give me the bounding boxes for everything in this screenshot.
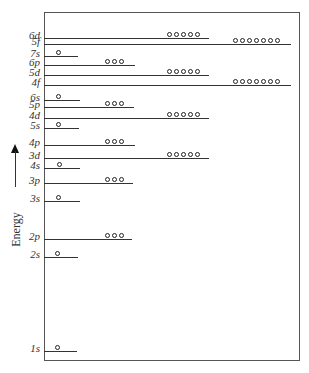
orbital-circle-icon [275, 79, 280, 84]
orbital-circle-icon [57, 162, 62, 167]
orbital-circle-icon [105, 139, 110, 144]
orbital-circle-icon [55, 251, 60, 256]
orbital-group-4f [233, 79, 280, 84]
level-line-4s [44, 168, 80, 169]
orbital-circle-icon [119, 177, 124, 182]
level-line-6d [44, 38, 209, 39]
level-label-4p: 4p [10, 137, 40, 147]
orbital-circle-icon [105, 233, 110, 238]
level-line-4p [44, 145, 135, 146]
level-line-3p [44, 183, 133, 184]
level-line-5s [44, 128, 79, 129]
level-line-1s [44, 351, 77, 352]
orbital-circle-icon [112, 233, 117, 238]
orbital-circle-icon [195, 152, 200, 157]
orbital-circle-icon [56, 195, 61, 200]
level-line-5f [44, 44, 291, 45]
orbital-circle-icon [56, 122, 61, 127]
orbital-circle-icon [112, 177, 117, 182]
orbital-group-3d [167, 152, 200, 157]
orbital-group-6s [56, 94, 61, 99]
orbital-group-1s [55, 345, 60, 350]
orbital-circle-icon [119, 233, 124, 238]
orbital-group-7s [56, 50, 61, 55]
orbital-group-5d [167, 69, 200, 74]
level-label-3p: 3p [10, 175, 40, 185]
orbital-circle-icon [174, 69, 179, 74]
orbital-group-2p [105, 233, 124, 238]
orbital-circle-icon [56, 94, 61, 99]
orbital-circle-icon [119, 59, 124, 64]
orbital-circle-icon [181, 32, 186, 37]
orbital-group-2s [55, 251, 60, 256]
orbital-circle-icon [105, 177, 110, 182]
orbital-circle-icon [247, 79, 252, 84]
orbital-circle-icon [268, 79, 273, 84]
orbital-circle-icon [105, 59, 110, 64]
level-line-7s [44, 56, 78, 57]
orbital-circle-icon [240, 38, 245, 43]
orbital-circle-icon [112, 59, 117, 64]
orbital-circle-icon [188, 152, 193, 157]
orbital-circle-icon [195, 69, 200, 74]
level-line-4f [44, 85, 291, 86]
orbital-group-4d [167, 112, 200, 117]
orbital-group-3p [105, 177, 124, 182]
level-line-5d [44, 75, 209, 76]
level-label-5f: 5f [10, 36, 40, 46]
orbital-circle-icon [167, 152, 172, 157]
orbital-group-4s [57, 162, 62, 167]
orbital-circle-icon [181, 69, 186, 74]
orbital-circle-icon [188, 69, 193, 74]
orbital-circle-icon [167, 69, 172, 74]
orbital-group-5p [105, 101, 124, 106]
orbital-circle-icon [195, 112, 200, 117]
orbital-circle-icon [119, 139, 124, 144]
level-line-3s [44, 201, 80, 202]
level-label-1s: 1s [10, 343, 40, 353]
orbital-circle-icon [261, 38, 266, 43]
orbital-circle-icon [174, 152, 179, 157]
orbital-circle-icon [254, 79, 259, 84]
level-label-4s: 4s [10, 160, 40, 170]
level-label-5p: 5p [10, 99, 40, 109]
orbital-group-6p [105, 59, 124, 64]
orbital-circle-icon [181, 152, 186, 157]
orbital-circle-icon [181, 112, 186, 117]
orbital-circle-icon [233, 38, 238, 43]
orbital-circle-icon [233, 79, 238, 84]
orbital-circle-icon [119, 101, 124, 106]
level-line-2s [44, 257, 78, 258]
orbital-circle-icon [254, 38, 259, 43]
orbital-circle-icon [188, 112, 193, 117]
level-line-6p [44, 65, 135, 66]
level-line-4d [44, 118, 209, 119]
level-label-4f: 4f [10, 77, 40, 87]
level-line-6s [44, 100, 80, 101]
level-label-3s: 3s [10, 193, 40, 203]
level-label-2s: 2s [10, 249, 40, 259]
level-label-5s: 5s [10, 120, 40, 130]
orbital-circle-icon [56, 50, 61, 55]
orbital-circle-icon [105, 101, 110, 106]
orbital-circle-icon [55, 345, 60, 350]
orbital-group-5f [233, 38, 280, 43]
level-label-2p: 2p [10, 231, 40, 241]
orbital-circle-icon [275, 38, 280, 43]
orbital-circle-icon [247, 38, 252, 43]
orbital-circle-icon [174, 32, 179, 37]
level-line-3d [44, 158, 209, 159]
orbital-circle-icon [167, 32, 172, 37]
orbital-group-5s [56, 122, 61, 127]
orbital-group-6d [167, 32, 200, 37]
level-line-2p [44, 239, 132, 240]
orbital-circle-icon [167, 112, 172, 117]
level-line-5p [44, 107, 134, 108]
orbital-circle-icon [112, 101, 117, 106]
orbital-circle-icon [268, 38, 273, 43]
orbital-circle-icon [240, 79, 245, 84]
orbital-circle-icon [261, 79, 266, 84]
orbital-group-3s [56, 195, 61, 200]
orbital-circle-icon [195, 32, 200, 37]
orbital-circle-icon [112, 139, 117, 144]
